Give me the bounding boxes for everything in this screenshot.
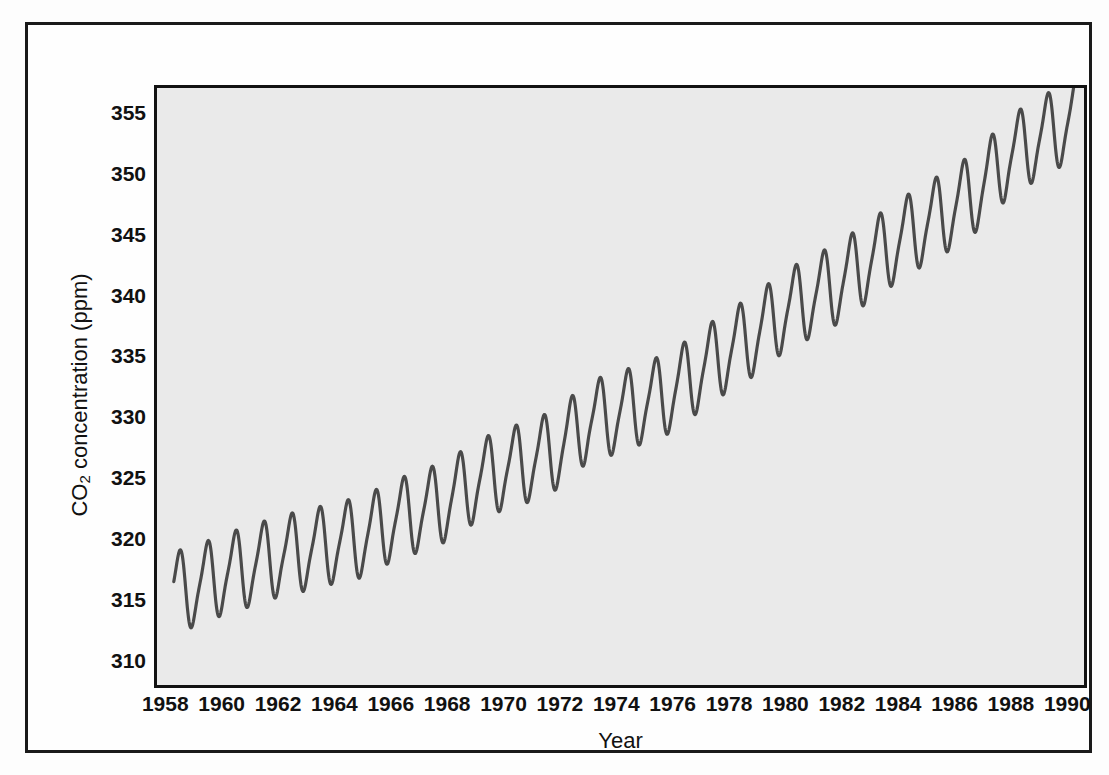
co2-curve: [174, 88, 1076, 628]
x-tick-label: 1988: [988, 693, 1035, 714]
x-tick-label: 1976: [649, 693, 696, 714]
figure-frame: 355350345340335330325320315310 195819601…: [25, 22, 1092, 753]
x-tick-label: 1990: [1044, 693, 1091, 714]
y-tick-label: 350: [86, 162, 146, 183]
x-tick-label: 1972: [537, 693, 584, 714]
y-tick-label: 355: [86, 101, 146, 122]
x-tick-label: 1982: [818, 693, 865, 714]
y-tick-label: 330: [86, 406, 146, 427]
x-tick-label: 1968: [424, 693, 471, 714]
y-tick-label: 310: [86, 649, 146, 670]
x-tick-label: 1986: [931, 693, 978, 714]
figure-page: 355350345340335330325320315310 195819601…: [0, 0, 1109, 775]
plot-area: [154, 85, 1087, 688]
y-tick-label: 335: [86, 345, 146, 366]
y-tick-label: 320: [86, 528, 146, 549]
x-axis-tick-labels: 1958196019621964196619681970197219741976…: [28, 693, 1109, 725]
x-tick-label: 1978: [706, 693, 753, 714]
keeling-curve-svg: [157, 88, 1084, 685]
scan-artifact-text: [56, 0, 456, 5]
y-tick-label: 340: [86, 284, 146, 305]
x-axis-title: Year: [154, 728, 1087, 754]
x-tick-label: 1984: [875, 693, 922, 714]
y-tick-label: 315: [86, 589, 146, 610]
x-tick-label: 1974: [593, 693, 640, 714]
x-tick-label: 1970: [480, 693, 527, 714]
y-tick-label: 325: [86, 467, 146, 488]
x-tick-label: 1960: [198, 693, 245, 714]
x-tick-label: 1980: [762, 693, 809, 714]
y-axis-tick-labels: 355350345340335330325320315310: [76, 25, 146, 775]
y-tick-label: 345: [86, 223, 146, 244]
x-tick-label: 1964: [311, 693, 358, 714]
x-tick-label: 1958: [142, 693, 189, 714]
x-tick-label: 1962: [255, 693, 302, 714]
x-tick-label: 1966: [367, 693, 414, 714]
